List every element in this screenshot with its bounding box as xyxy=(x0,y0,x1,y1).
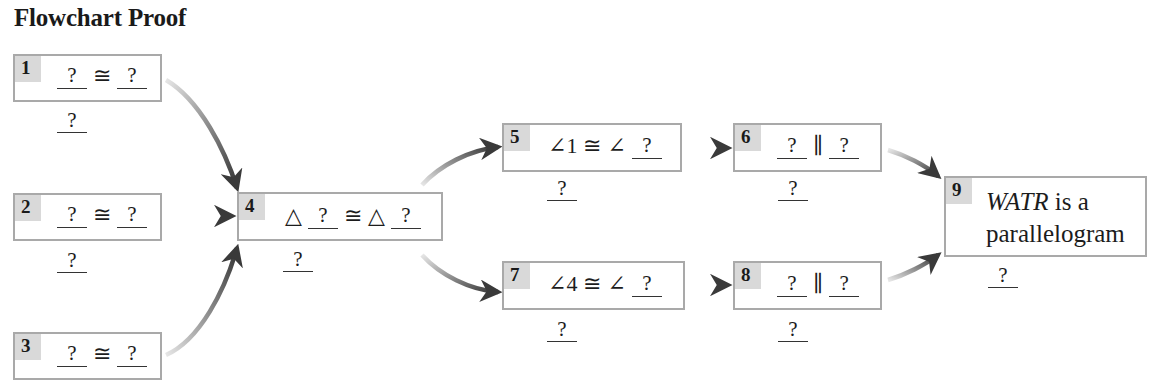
step-number: 8 xyxy=(735,263,761,289)
reason-blank-1[interactable]: ? xyxy=(57,108,87,133)
step-number: 6 xyxy=(735,125,761,151)
conclusion-text: is a xyxy=(1049,188,1089,215)
step-box-9: 9 WATR is a parallelogram xyxy=(944,176,1147,257)
step-number: 7 xyxy=(504,263,530,289)
blank-field[interactable]: ? xyxy=(57,340,87,367)
step-number: 4 xyxy=(239,194,265,220)
step-box-7: 7 ∠4 ≅ ∠ ? xyxy=(502,261,685,310)
figure-name: WATR xyxy=(986,188,1049,215)
congruent-symbol: ≅ xyxy=(93,341,111,367)
conclusion-text-line2: parallelogram xyxy=(986,218,1125,250)
blank-field[interactable]: ? xyxy=(308,202,338,229)
conclusion-statement: WATR is a parallelogram xyxy=(986,186,1125,250)
blank-field[interactable]: ? xyxy=(829,270,859,297)
step-box-5: 5 ∠1 ≅ ∠ ? xyxy=(502,123,682,172)
blank-field[interactable]: ? xyxy=(777,132,807,159)
congruent-symbol: ≅ xyxy=(344,203,362,229)
blank-field[interactable]: ? xyxy=(632,270,662,297)
step-box-3: 3 ? ≅ ? xyxy=(13,332,162,380)
angle-symbol: ∠ xyxy=(607,133,625,159)
reason-blank-4[interactable]: ? xyxy=(283,247,313,272)
congruent-symbol: ≅ xyxy=(583,271,601,297)
triangle-symbol: △ xyxy=(285,203,302,229)
blank-field[interactable]: ? xyxy=(57,62,87,89)
angle-1-label: ∠1 xyxy=(548,133,577,159)
step-box-8: 8 ? ∥ ? xyxy=(733,261,882,310)
reason-blank-2[interactable]: ? xyxy=(57,248,87,273)
step-number: 2 xyxy=(15,195,41,221)
step-statement: △ ? ≅ △ ? xyxy=(285,202,421,229)
arrow-8-to-9 xyxy=(888,255,938,280)
arrow-4-to-5 xyxy=(422,147,498,185)
blank-field[interactable]: ? xyxy=(829,132,859,159)
congruent-symbol: ≅ xyxy=(93,202,111,228)
angle-4-label: ∠4 xyxy=(548,271,577,297)
step-number: 5 xyxy=(504,125,530,151)
page-title: Flowchart Proof xyxy=(14,4,186,32)
step-statement: ? ∥ ? xyxy=(777,132,859,159)
reason-blank-9[interactable]: ? xyxy=(988,263,1018,288)
step-statement: ? ≅ ? xyxy=(57,340,147,367)
reason-blank-6[interactable]: ? xyxy=(778,176,808,201)
reason-blank-5[interactable]: ? xyxy=(547,176,577,201)
blank-field[interactable]: ? xyxy=(117,340,147,367)
step-statement: ? ≅ ? xyxy=(57,201,147,228)
arrow-3-to-4 xyxy=(166,248,237,355)
blank-field[interactable]: ? xyxy=(117,62,147,89)
parallel-symbol: ∥ xyxy=(813,133,823,159)
blank-field[interactable]: ? xyxy=(117,201,147,228)
step-number: 3 xyxy=(15,334,41,360)
blank-field[interactable]: ? xyxy=(632,132,662,159)
congruent-symbol: ≅ xyxy=(93,63,111,89)
step-box-4: 4 △ ? ≅ △ ? xyxy=(237,192,443,241)
parallel-symbol: ∥ xyxy=(813,271,823,297)
step-number: 1 xyxy=(15,56,41,82)
step-statement: ? ∥ ? xyxy=(777,270,859,297)
angle-symbol: ∠ xyxy=(607,271,625,297)
blank-field[interactable]: ? xyxy=(391,202,421,229)
step-statement: ∠4 ≅ ∠ ? xyxy=(548,270,662,297)
blank-field[interactable]: ? xyxy=(777,270,807,297)
reason-blank-8[interactable]: ? xyxy=(778,317,808,342)
arrow-4-to-7 xyxy=(422,255,498,292)
step-statement: ? ≅ ? xyxy=(57,62,147,89)
congruent-symbol: ≅ xyxy=(583,133,601,159)
arrow-1-to-4 xyxy=(166,80,237,188)
step-statement: ∠1 ≅ ∠ ? xyxy=(548,132,662,159)
triangle-symbol: △ xyxy=(368,203,385,229)
arrow-6-to-9 xyxy=(888,150,938,176)
step-box-1: 1 ? ≅ ? xyxy=(13,54,162,102)
step-number: 9 xyxy=(946,178,972,204)
reason-blank-7[interactable]: ? xyxy=(547,317,577,342)
blank-field[interactable]: ? xyxy=(57,201,87,228)
step-box-2: 2 ? ≅ ? xyxy=(13,193,162,241)
step-box-6: 6 ? ∥ ? xyxy=(733,123,882,172)
